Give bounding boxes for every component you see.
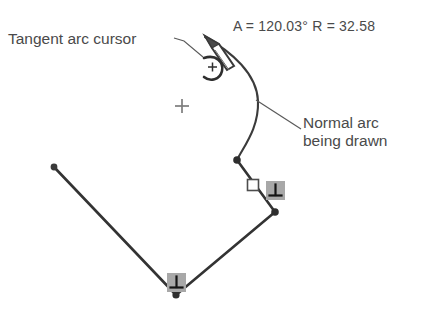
node-corner-right [271,208,279,216]
annotation-label-normal-arc-line1: Normal arc [303,114,379,131]
annotation-label-tangent-arc-cursor: Tangent arc cursor [8,30,136,48]
perpendicular-constraint-glyph[interactable] [266,181,285,200]
annotation-label-normal-arc: Normal arcbeing drawn [303,114,387,151]
node-arc-end [233,156,241,164]
annotation-label-normal-arc-line2: being drawn [303,132,387,150]
node-corner-bottom [172,291,179,298]
node-endpoint-left [51,164,58,171]
normal-arc-path [205,37,258,160]
polyline-segment-bottom-to-left [54,167,176,295]
polyline-segment-corner-to-bottom [176,212,275,295]
perpendicular-constraint-glyph[interactable] [167,273,186,292]
crosshair-marker [175,99,189,113]
tangent-arc-pencil-cursor[interactable] [204,36,234,80]
leader-line-normal-arc [256,100,301,129]
leader-line-tangent-arc-cursor [174,38,203,57]
sketch-illustration-canvas: Tangent arc cursor A = 120.03° R = 32.58… [0,0,428,319]
tangent-arc-crosshair-icon [208,63,217,72]
midpoint-square-marker [248,180,259,191]
angle-radius-readout: A = 120.03° R = 32.58 [233,18,375,35]
